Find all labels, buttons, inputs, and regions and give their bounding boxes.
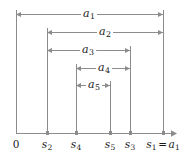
tick-mark-ts2 bbox=[46, 131, 49, 135]
arrowhead-right-a2 bbox=[158, 30, 163, 35]
axis-arrowhead-icon bbox=[171, 130, 177, 137]
tick-mark-ts1 bbox=[162, 131, 165, 135]
measure-label-a5: a5 bbox=[86, 79, 102, 92]
arrowhead-right-a4 bbox=[125, 66, 130, 71]
arrowhead-right-a5 bbox=[105, 83, 110, 88]
axis-tick-label-ts5: s5 bbox=[105, 139, 116, 152]
tick-mark-ts4 bbox=[75, 131, 78, 135]
measure-label-a1: a1 bbox=[81, 8, 97, 21]
axis-tick-label-ts4: s4 bbox=[71, 139, 82, 152]
tick-mark-ts3 bbox=[129, 131, 132, 135]
vertical-guide-lines bbox=[17, 10, 164, 133]
arrowhead-right-a1 bbox=[158, 12, 163, 17]
axis-tick-label-t0: 0 bbox=[13, 139, 20, 150]
measure-label-a4: a4 bbox=[96, 62, 112, 75]
interval-diagram: a1a2a3a4a5 0s2s4s5s3s1=a1 bbox=[0, 0, 185, 157]
axis-tick-label-ts1: s1=a1 bbox=[146, 139, 180, 152]
axis-tick-label-ts3: s3 bbox=[125, 139, 136, 152]
arrowhead-right-a3 bbox=[125, 48, 130, 53]
axis-tick-label-ts2: s2 bbox=[42, 139, 53, 152]
axis-line bbox=[16, 130, 177, 137]
measure-label-a3: a3 bbox=[80, 44, 96, 57]
tick-mark-ts5 bbox=[109, 131, 112, 135]
measure-label-a2: a2 bbox=[97, 26, 113, 39]
